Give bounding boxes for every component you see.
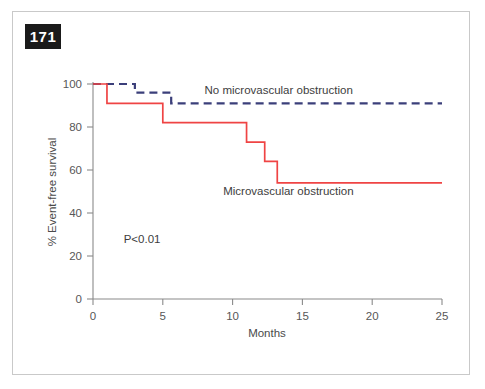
series-label: No microvascular obstruction [205, 84, 353, 96]
figure-root: 171 020406080100 0510152025 No microvasc… [0, 0, 485, 389]
x-tick-label: 0 [90, 310, 96, 322]
x-tick-label: 5 [160, 310, 166, 322]
series-line [93, 84, 442, 183]
chart-series-layer: No microvascular obstructionMicrovascula… [93, 84, 442, 197]
x-tick-label: 25 [436, 310, 449, 322]
series-label: Microvascular obstruction [223, 185, 353, 197]
chart-annotation-layer: P<0.01 [124, 233, 161, 245]
y-tick-label: 20 [69, 250, 82, 262]
y-tick-label: 100 [63, 78, 82, 90]
x-tick-label: 15 [296, 310, 309, 322]
y-axis-title: % Event-free survival [46, 138, 58, 247]
x-axis-title: Months [248, 327, 286, 339]
y-tick-label: 40 [69, 207, 82, 219]
x-axis-ticks: 0510152025 [90, 299, 449, 322]
x-tick-label: 10 [226, 310, 239, 322]
y-tick-label: 80 [69, 121, 82, 133]
y-tick-label: 60 [69, 164, 82, 176]
pvalue-annotation: P<0.01 [124, 233, 161, 245]
y-tick-label: 0 [76, 293, 82, 305]
x-tick-label: 20 [366, 310, 379, 322]
y-axis-ticks: 020406080100 [63, 78, 93, 305]
chart-plot-area: 020406080100 0510152025 No microvascular… [0, 0, 485, 389]
